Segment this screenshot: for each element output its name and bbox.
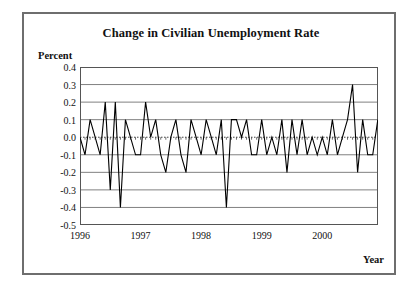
x-tick-label: 1999 (252, 230, 272, 241)
y-axis-tick-labels: 0.40.30.20.10.0-0.1-0.2-0.3-0.4-0.5 (24, 67, 76, 225)
plot-area (80, 67, 378, 225)
y-tick-label: -0.4 (60, 202, 76, 213)
x-tick-label: 1998 (191, 230, 211, 241)
y-tick-label: -0.5 (60, 220, 76, 231)
y-tick-label: 0.4 (64, 62, 77, 73)
y-tick-label: -0.2 (60, 167, 76, 178)
gridlines (80, 85, 378, 208)
plot-border (81, 68, 378, 225)
chart-title: Change in Civilian Unemployment Rate (24, 26, 398, 41)
x-tick-label: 1996 (70, 230, 90, 241)
x-axis-title: Year (363, 254, 384, 265)
y-tick-label: -0.1 (60, 149, 76, 160)
x-tick-label: 1997 (131, 230, 151, 241)
y-tick-label: 0.0 (64, 132, 77, 143)
chart-plot-svg (80, 67, 378, 225)
x-axis-tick-labels: 19961997199819992000 (80, 230, 378, 246)
y-tick-label: 0.3 (64, 79, 77, 90)
x-tick-label: 2000 (312, 230, 332, 241)
y-tick-label: 0.2 (64, 97, 77, 108)
chart-figure-frame: Change in Civilian Unemployment Rate Per… (22, 12, 396, 275)
data-series-line (80, 85, 378, 208)
y-axis-title: Percent (38, 50, 72, 61)
y-tick-label: 0.1 (64, 114, 77, 125)
y-tick-label: -0.3 (60, 184, 76, 195)
